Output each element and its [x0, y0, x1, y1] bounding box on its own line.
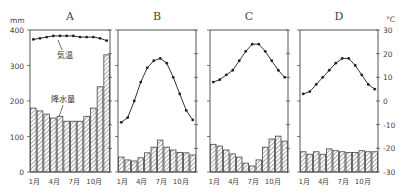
precip-bar — [301, 152, 307, 172]
temperature-point — [212, 81, 215, 84]
temp-annotation: 気温 — [57, 50, 73, 60]
precip-bar — [77, 121, 83, 172]
precip-bar — [282, 141, 288, 172]
temperature-point — [328, 69, 331, 72]
temperature-point — [39, 37, 42, 40]
precip-bar — [224, 150, 230, 172]
precip-bar — [366, 152, 372, 172]
month-tick-label: 7月 — [69, 178, 80, 186]
left-axis-tick-label: 300 — [10, 62, 25, 71]
precip-annotation: 降水量 — [51, 94, 75, 104]
panel-d-temperature — [302, 57, 376, 95]
precip-bar — [91, 108, 97, 172]
temperature-point — [105, 39, 108, 42]
month-tick-label: 1月 — [299, 178, 310, 186]
month-tick-label: 10月 — [173, 178, 189, 186]
precip-bar — [64, 121, 70, 172]
temperature-point — [172, 76, 175, 79]
temperature-point — [72, 35, 75, 38]
temperature-point — [283, 76, 286, 79]
temperature-point — [52, 35, 55, 38]
precip-bar — [307, 154, 313, 172]
temperature-point — [238, 59, 241, 62]
precip-bar — [340, 152, 346, 172]
temperature-lines-layer — [32, 35, 376, 124]
right-axis-tick-label: 10 — [383, 73, 393, 82]
precip-bar — [190, 155, 196, 172]
temperature-line — [33, 36, 106, 41]
right-axis-tick-label: 0 — [383, 97, 388, 106]
month-tick-label: 7月 — [156, 178, 167, 186]
left-axis-tick-label: 200 — [10, 97, 25, 106]
precip-bar — [359, 151, 365, 172]
temperature-line — [303, 58, 375, 94]
precip-bar — [51, 118, 57, 172]
panel-b-temperature — [120, 57, 194, 124]
temperature-point — [302, 93, 305, 96]
panel-a-temperature — [32, 35, 108, 43]
precip-bar — [333, 151, 339, 172]
precip-bar — [327, 149, 333, 172]
temperature-point — [264, 50, 267, 53]
month-tick-label: 4月 — [228, 178, 239, 186]
temperature-point — [367, 83, 370, 86]
panel-c-temperature — [212, 43, 286, 84]
chart-svg: A1月4月7月10月B1月4月7月10月C1月4月7月10月D1月4月7月10月… — [0, 0, 406, 196]
temperature-point — [99, 37, 102, 40]
precip-bar — [243, 163, 249, 172]
precip-bar — [119, 157, 125, 172]
month-tick-label: 4月 — [318, 178, 329, 186]
left-axis-tick-label: 0 — [19, 168, 24, 177]
precip-bar — [256, 160, 262, 172]
month-tick-label: 1月 — [209, 178, 220, 186]
temperature-point — [32, 38, 35, 41]
precip-bar — [71, 121, 77, 172]
panel-d-bars — [301, 149, 378, 172]
panel-title-a: A — [65, 10, 75, 23]
precip-bar — [230, 154, 236, 172]
precip-bar — [37, 111, 43, 172]
temperature-point — [347, 57, 350, 60]
month-tick-label: 4月 — [49, 178, 60, 186]
temperature-point — [139, 81, 142, 84]
temperature-point — [85, 36, 88, 39]
temperature-point — [191, 119, 194, 122]
month-tick-label: 10月 — [265, 178, 281, 186]
temperature-point — [120, 121, 123, 124]
precip-bar — [237, 157, 243, 172]
temperature-point — [373, 88, 376, 91]
precip-bar — [184, 153, 190, 172]
precip-bar — [353, 152, 359, 172]
temperature-point — [225, 74, 228, 77]
precip-bar — [57, 116, 63, 172]
right-axis-tick-label: -30 — [383, 168, 395, 177]
precip-bar — [158, 140, 164, 172]
panel-c-bars — [211, 136, 288, 172]
month-tick-label: 7月 — [248, 178, 259, 186]
temperature-point — [45, 36, 48, 39]
temp-annotation-leader — [58, 40, 62, 50]
precip-bar — [314, 152, 320, 172]
temperature-point — [59, 35, 62, 38]
precip-bar — [276, 136, 282, 172]
temperature-point — [218, 78, 221, 81]
right-axis-tick-label: -20 — [383, 144, 395, 153]
month-tick-label: 1月 — [29, 178, 40, 186]
temperature-point — [277, 69, 280, 72]
precip-bar — [138, 158, 144, 172]
precip-bar — [132, 161, 138, 172]
precip-bar — [263, 147, 269, 172]
temperature-point — [79, 36, 82, 39]
temperature-point — [133, 100, 136, 103]
temperature-line — [121, 58, 193, 122]
temperature-point — [231, 69, 234, 72]
precip-bar — [250, 166, 256, 172]
left-axis-tick-label: 100 — [10, 133, 25, 142]
precip-bar — [97, 87, 103, 172]
precipitation-bars-layer — [31, 55, 378, 172]
right-axis-tick-label: -10 — [383, 121, 395, 130]
month-tick-label: 10月 — [355, 178, 371, 186]
left-axis-tick-label: 400 — [10, 26, 25, 35]
precip-bar — [145, 153, 151, 172]
temperature-point — [341, 57, 344, 60]
